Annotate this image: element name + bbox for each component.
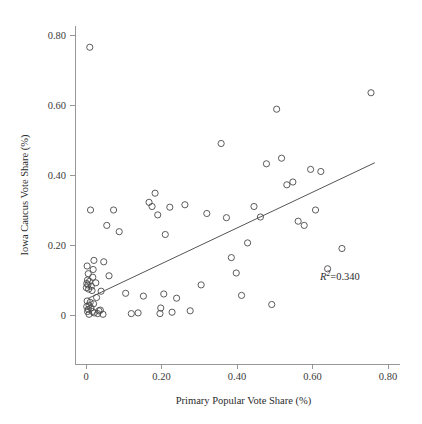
x-axis-tick-label: 0.40 xyxy=(228,371,246,382)
y-axis-tick-label: 0.80 xyxy=(48,30,66,41)
x-axis-tick-label: 0.20 xyxy=(152,371,170,382)
plot-background xyxy=(0,0,422,424)
annotations-layer: R2=0.340 xyxy=(319,269,360,282)
y-axis-title: Iowa Caucus Vote Share (%) xyxy=(19,134,31,255)
x-axis-tick-label: 0.80 xyxy=(379,371,397,382)
y-axis-tick-label: 0.20 xyxy=(48,240,66,251)
r-squared-annotation: R2=0.340 xyxy=(319,269,360,282)
x-axis-tick-label: 0 xyxy=(83,371,88,382)
x-axis-tick-label: 0.60 xyxy=(303,371,321,382)
y-axis-tick-label: 0.40 xyxy=(48,170,66,181)
y-axis-tick-label: 0 xyxy=(61,310,66,321)
x-axis-title: Primary Popular Vote Share (%) xyxy=(176,395,312,407)
r-squared-value: 0.340 xyxy=(336,271,360,282)
scatter-plot-figure: 00.200.400.600.8000.200.400.600.80Primar… xyxy=(0,0,422,424)
plot-canvas: 00.200.400.600.8000.200.400.600.80Primar… xyxy=(0,0,422,424)
y-axis-tick-label: 0.60 xyxy=(48,100,66,111)
